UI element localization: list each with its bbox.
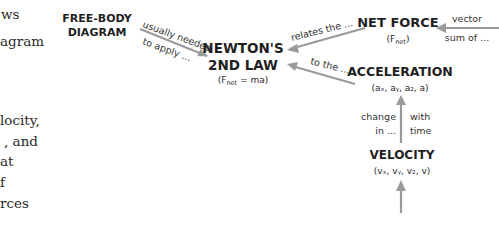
arrow-netforce-to-newton-head — [287, 44, 299, 53]
edge-label-sum-of: sum of ... — [445, 32, 489, 43]
node-symbol: (Fnet) — [387, 34, 410, 46]
node-title: DIAGRAM — [68, 26, 127, 39]
node-free-body-diagram: FREE-BODY DIAGRAM — [62, 12, 133, 39]
edge-label-in: in ... — [375, 125, 396, 136]
node-title: VELOCITY — [369, 148, 434, 162]
edge-label-with: with — [410, 111, 430, 122]
node-formula: (Fnet = ma) — [218, 75, 268, 87]
node-components: (vₓ, vᵧ, v₂, v) — [374, 166, 430, 176]
node-title: NEWTON'S — [202, 40, 283, 56]
node-velocity: VELOCITY (vₓ, vᵧ, v₂, v) — [369, 148, 434, 176]
edge-label-time: time — [410, 125, 432, 136]
node-title: NET FORCE — [357, 15, 439, 30]
node-net-force: NET FORCE (Fnet) — [357, 15, 439, 46]
edge-label-change: change — [361, 111, 396, 122]
node-title: 2ND LAW — [208, 57, 278, 73]
node-title: FREE-BODY — [62, 12, 133, 25]
node-components: (aₓ, aᵧ, a₂, a) — [371, 83, 428, 93]
concept-map: FREE-BODY DIAGRAM NEWTON'S 2ND LAW (Fnet… — [0, 0, 499, 235]
arrow-into-velocity-head — [396, 180, 406, 191]
arrow-accel-to-newton-head — [287, 62, 298, 71]
node-acceleration: ACCELERATION (aₓ, aᵧ, a₂, a) — [347, 64, 453, 93]
node-newtons-second-law: NEWTON'S 2ND LAW (Fnet = ma) — [202, 40, 283, 87]
node-title: ACCELERATION — [347, 64, 453, 79]
edge-label-vector: vector — [452, 13, 482, 24]
arrow-velocity-to-accel-head — [396, 95, 406, 105]
